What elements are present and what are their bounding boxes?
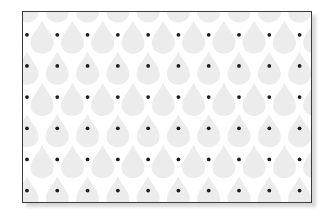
- apex-dot: [207, 158, 211, 162]
- apex-dot: [298, 95, 302, 99]
- apex-dot: [237, 64, 241, 68]
- apex-dot: [55, 126, 59, 130]
- apex-dot: [207, 33, 211, 37]
- teardrop-pattern-surface: [23, 12, 311, 202]
- apex-dot: [55, 189, 59, 193]
- apex-dot: [298, 189, 302, 193]
- apex-dot: [177, 33, 181, 37]
- apex-dot: [146, 33, 150, 37]
- apex-dot: [267, 189, 271, 193]
- apex-dot: [146, 126, 150, 130]
- apex-dot: [207, 64, 211, 68]
- apex-dot: [116, 158, 120, 162]
- apex-dot: [207, 95, 211, 99]
- apex-dot: [25, 189, 29, 193]
- apex-dot: [146, 189, 150, 193]
- apex-dot: [267, 64, 271, 68]
- apex-dot: [298, 126, 302, 130]
- apex-dot: [207, 126, 211, 130]
- apex-dot: [116, 189, 120, 193]
- apex-dot: [86, 126, 90, 130]
- apex-dot: [237, 126, 241, 130]
- apex-dot: [267, 95, 271, 99]
- apex-dot: [237, 95, 241, 99]
- apex-dot: [177, 64, 181, 68]
- apex-dot: [177, 126, 181, 130]
- apex-dot: [86, 64, 90, 68]
- apex-dot: [86, 158, 90, 162]
- apex-dot: [298, 158, 302, 162]
- apex-dot: [116, 126, 120, 130]
- apex-dot: [55, 33, 59, 37]
- apex-dot: [237, 158, 241, 162]
- apex-dot: [177, 158, 181, 162]
- apex-dot: [267, 33, 271, 37]
- apex-dot: [116, 33, 120, 37]
- apex-dot: [25, 64, 29, 68]
- apex-dot: [267, 158, 271, 162]
- apex-dot: [146, 95, 150, 99]
- apex-dot: [25, 158, 29, 162]
- apex-dot: [146, 158, 150, 162]
- apex-dot: [237, 33, 241, 37]
- apex-dot: [237, 189, 241, 193]
- apex-dot: [25, 33, 29, 37]
- apex-dot: [55, 158, 59, 162]
- apex-dot: [55, 95, 59, 99]
- apex-dot: [177, 189, 181, 193]
- apex-dot: [25, 126, 29, 130]
- apex-dot: [177, 95, 181, 99]
- apex-dot: [55, 64, 59, 68]
- apex-dot: [207, 189, 211, 193]
- apex-dot: [298, 64, 302, 68]
- apex-dot: [86, 95, 90, 99]
- pattern-frame: [22, 11, 312, 203]
- apex-dot: [86, 189, 90, 193]
- apex-dot: [267, 126, 271, 130]
- apex-dot: [146, 64, 150, 68]
- apex-dot: [116, 64, 120, 68]
- apex-dot: [86, 33, 90, 37]
- apex-dot: [298, 33, 302, 37]
- apex-dot: [25, 95, 29, 99]
- apex-dot: [116, 95, 120, 99]
- pattern-swatch-canvas: [0, 0, 333, 220]
